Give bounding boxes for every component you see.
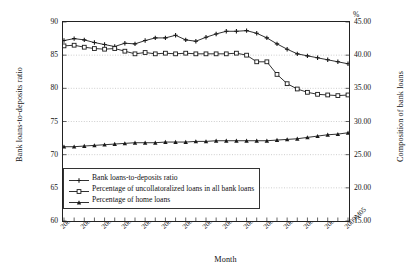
data-point-marker-plus	[123, 41, 127, 45]
data-point-marker-square	[336, 94, 340, 98]
legend-item[interactable]: Percentage of home loans	[68, 194, 254, 205]
data-point-marker-square	[143, 51, 147, 55]
y-axis-left-tick-label: 65	[28, 183, 58, 192]
y-axis-left-tick-label: 85	[28, 50, 58, 59]
data-point-marker-plus	[214, 32, 218, 36]
y-axis-left-tick-label: 90	[28, 17, 58, 26]
legend-label: Percentage of uncollatoralized loans in …	[90, 184, 254, 193]
data-point-marker-plus	[234, 29, 238, 33]
data-point-marker-square	[93, 47, 97, 51]
data-point-marker-plus	[184, 38, 188, 42]
legend-marker-triangle-icon	[68, 194, 90, 205]
data-point-marker-square	[174, 52, 178, 56]
data-point-marker-plus	[133, 42, 137, 46]
data-point-marker-square	[326, 93, 330, 97]
y-axis-left-tick-label: 75	[28, 117, 58, 126]
chart-figure: Bank loans-to-deposits ratio Composition…	[0, 0, 411, 277]
data-point-marker-square	[265, 60, 269, 64]
y-axis-right-tick-label: 35.00	[354, 83, 371, 92]
data-point-marker-plus	[153, 36, 157, 40]
data-point-marker-square	[306, 90, 310, 94]
y-axis-right-tick-label: 20.00	[354, 183, 371, 192]
data-point-marker-plus	[102, 42, 106, 46]
data-point-marker-plus	[326, 58, 330, 62]
data-point-marker-square	[214, 52, 218, 56]
data-point-marker-plus	[315, 56, 319, 60]
series-3	[63, 131, 349, 149]
y-axis-left-title: Bank loans-to-deposits ratio	[15, 40, 24, 190]
chart-legend: Bank loans-to-deposits ratioPercentage o…	[63, 168, 260, 209]
data-point-marker-plus	[194, 39, 198, 43]
data-point-marker-plus	[336, 60, 340, 64]
data-point-marker-square	[184, 51, 188, 55]
data-point-marker-plus	[92, 40, 96, 44]
y-axis-right-tick-label: 30.00	[354, 117, 371, 126]
data-point-marker-plus	[204, 35, 208, 39]
data-point-marker-square	[123, 49, 127, 53]
y-axis-right-title: Composition of bank loans	[396, 42, 405, 192]
data-point-marker-plus	[265, 36, 269, 40]
data-point-marker-square	[285, 82, 289, 86]
y-axis-right-tick-label: 25.00	[354, 150, 371, 159]
y-axis-right-tick-label: 40.00	[354, 50, 371, 59]
legend-marker-square-icon	[68, 183, 90, 194]
data-point-marker-plus	[173, 33, 177, 37]
data-point-marker-square	[295, 87, 299, 91]
legend-label: Bank loans-to-deposits ratio	[90, 173, 178, 182]
legend-marker-plus-icon	[68, 172, 90, 183]
data-point-marker-square	[133, 52, 137, 56]
data-point-marker-plus	[346, 62, 349, 66]
data-point-marker-square	[194, 52, 198, 56]
y-axis-right-tick-label: 45.00	[354, 17, 371, 26]
data-point-marker-plus	[224, 29, 228, 33]
data-point-marker-square	[103, 47, 107, 51]
legend-item[interactable]: Percentage of uncollatoralized loans in …	[68, 183, 254, 194]
data-point-marker-plus	[63, 38, 66, 42]
data-point-marker-square	[316, 92, 320, 96]
data-point-marker-plus	[143, 38, 147, 42]
data-point-marker-plus	[82, 38, 86, 42]
data-point-marker-square	[72, 43, 76, 47]
data-point-marker-square	[346, 93, 349, 97]
y-axis-left-tick-label: 70	[28, 150, 58, 159]
data-point-marker-square	[153, 52, 157, 56]
y-axis-left-tick-label: 80	[28, 83, 58, 92]
data-point-marker-square	[275, 73, 279, 77]
legend-item[interactable]: Bank loans-to-deposits ratio	[68, 172, 254, 183]
y-axis-left-tick-label: 60	[28, 216, 58, 225]
data-point-marker-plus	[72, 36, 76, 40]
data-point-marker-square	[224, 52, 228, 56]
series-2	[63, 43, 349, 97]
data-point-marker-plus	[163, 36, 167, 40]
data-point-marker-square	[77, 190, 81, 194]
data-point-marker-square	[82, 45, 86, 49]
legend-label: Percentage of home loans	[90, 195, 170, 204]
data-point-marker-plus	[305, 54, 309, 58]
x-axis-title: Month	[0, 255, 411, 264]
data-point-marker-square	[245, 53, 249, 57]
data-point-marker-square	[113, 47, 117, 51]
data-point-marker-plus	[295, 52, 299, 56]
data-point-marker-square	[235, 51, 239, 55]
data-point-marker-square	[255, 60, 259, 64]
data-point-marker-plus	[285, 47, 289, 51]
data-point-marker-plus	[244, 28, 248, 32]
data-point-marker-square	[164, 51, 168, 55]
data-point-marker-square	[204, 52, 208, 56]
data-point-marker-plus	[255, 31, 259, 35]
data-point-marker-plus	[275, 42, 279, 46]
data-point-marker-square	[63, 44, 66, 48]
